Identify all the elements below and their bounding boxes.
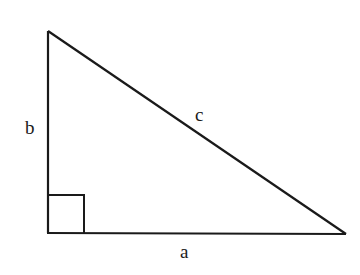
side-a xyxy=(47,233,346,234)
label-a: a xyxy=(180,242,188,261)
side-c-hypotenuse xyxy=(48,31,346,234)
triangle-diagram xyxy=(0,0,360,275)
label-c: c xyxy=(195,105,203,124)
label-b: b xyxy=(25,118,35,137)
right-angle-marker xyxy=(48,195,84,233)
